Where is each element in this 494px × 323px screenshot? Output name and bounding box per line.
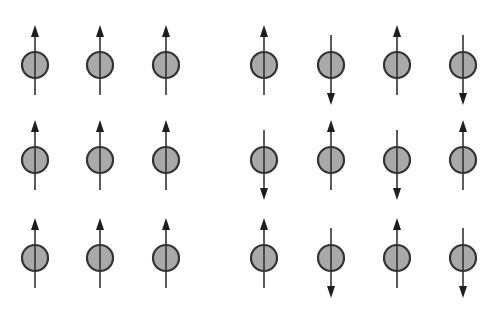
spin-site xyxy=(251,130,277,200)
arrow-up-icon xyxy=(327,120,335,132)
arrow-up-icon xyxy=(260,25,268,37)
arrow-down-icon xyxy=(459,93,467,105)
spin-site xyxy=(384,25,410,95)
spin-site xyxy=(22,25,48,95)
arrow-up-icon xyxy=(393,218,401,230)
ferromagnetic-panel xyxy=(22,25,179,288)
spin-site xyxy=(384,130,410,200)
arrow-down-icon xyxy=(459,286,467,298)
spin-site xyxy=(318,120,344,190)
spin-site xyxy=(87,120,113,190)
antiferromagnetic-panel xyxy=(251,25,476,298)
arrow-down-icon xyxy=(260,188,268,200)
arrow-up-icon xyxy=(162,218,170,230)
arrow-up-icon xyxy=(96,120,104,132)
spin-site xyxy=(251,218,277,288)
arrow-up-icon xyxy=(162,25,170,37)
spin-site xyxy=(384,218,410,288)
spin-site xyxy=(22,120,48,190)
arrow-up-icon xyxy=(31,120,39,132)
spin-lattice-diagram xyxy=(0,0,494,323)
arrow-up-icon xyxy=(393,25,401,37)
spin-site xyxy=(318,228,344,298)
spin-site xyxy=(450,228,476,298)
arrow-up-icon xyxy=(96,218,104,230)
spin-site xyxy=(153,120,179,190)
arrow-up-icon xyxy=(31,25,39,37)
arrow-up-icon xyxy=(31,218,39,230)
spin-site xyxy=(153,218,179,288)
spin-site xyxy=(153,25,179,95)
spin-site xyxy=(450,35,476,105)
arrow-up-icon xyxy=(96,25,104,37)
spin-site xyxy=(450,120,476,190)
arrow-up-icon xyxy=(162,120,170,132)
arrow-down-icon xyxy=(327,93,335,105)
arrow-up-icon xyxy=(459,120,467,132)
arrow-down-icon xyxy=(327,286,335,298)
spin-site xyxy=(22,218,48,288)
spin-site xyxy=(251,25,277,95)
arrow-down-icon xyxy=(393,188,401,200)
spin-site xyxy=(87,218,113,288)
arrow-up-icon xyxy=(260,218,268,230)
spin-site xyxy=(318,35,344,105)
spin-site xyxy=(87,25,113,95)
